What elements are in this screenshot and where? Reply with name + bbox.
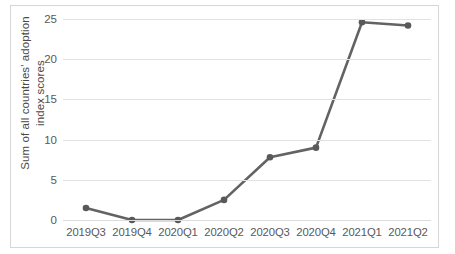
y-tick-label-5: 5	[51, 174, 57, 186]
x-tick-label-2021Q1: 2021Q1	[342, 226, 382, 238]
data-point-2021Q2	[405, 22, 412, 29]
gridline-y-10	[63, 140, 431, 141]
gridline-y-5	[63, 180, 431, 181]
y-tick-label-25: 25	[44, 13, 57, 25]
x-tick-label-2019Q3: 2019Q3	[66, 226, 106, 238]
y-tick-label-20: 20	[44, 53, 57, 65]
x-tick-label-2020Q2: 2020Q2	[204, 226, 244, 238]
y-axis-tick-labels: 0510152025	[24, 19, 57, 220]
x-axis-tick-labels: 2019Q32019Q42020Q12020Q22020Q32020Q42021…	[63, 226, 431, 244]
gridline-y-20	[63, 59, 431, 60]
data-point-2019Q3	[83, 205, 90, 212]
y-tick-label-10: 10	[44, 134, 57, 146]
x-tick-label-2019Q4: 2019Q4	[112, 226, 152, 238]
line-chart: Sum of all countries' adoption index sco…	[0, 0, 455, 254]
x-tick-label-2021Q2: 2021Q2	[388, 226, 428, 238]
plot-area	[63, 19, 431, 220]
y-tick-label-15: 15	[44, 93, 57, 105]
data-point-2020Q3	[267, 154, 274, 161]
data-point-2020Q4	[313, 144, 320, 151]
x-tick-label-2020Q4: 2020Q4	[296, 226, 336, 238]
x-tick-label-2020Q3: 2020Q3	[250, 226, 290, 238]
gridline-y-25	[63, 19, 431, 20]
x-tick-label-2020Q1: 2020Q1	[158, 226, 198, 238]
gridline-y-15	[63, 99, 431, 100]
gridline-y-0	[63, 220, 431, 221]
series-line-path	[86, 22, 408, 220]
data-point-2020Q2	[221, 197, 228, 204]
data-series-line	[63, 19, 431, 220]
y-tick-label-0: 0	[51, 214, 57, 226]
